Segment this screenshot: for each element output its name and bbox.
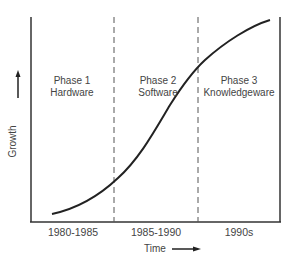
phase-2-title: Phase 2: [113, 75, 203, 87]
x-tick-label: 1985-1990: [115, 226, 197, 238]
phase-2-label: Phase 2 Software: [113, 75, 203, 99]
y-axis-title: Growth: [7, 125, 18, 157]
phase-1-title: Phase 1: [27, 75, 117, 87]
growth-curve: [52, 20, 270, 214]
phase-1-subtitle: Hardware: [27, 87, 117, 99]
s-curve-diagram: [0, 0, 293, 262]
phase-1-label: Phase 1 Hardware: [27, 75, 117, 99]
x-tick-label: 1980-1985: [32, 226, 114, 238]
phase-3-subtitle: Knowledgeware: [194, 87, 284, 99]
x-tick-label: 1990s: [199, 226, 279, 238]
phase-3-label: Phase 3 Knowledgeware: [194, 75, 284, 99]
x-axis-title: Time: [140, 243, 170, 255]
phase-3-title: Phase 3: [194, 75, 284, 87]
phase-2-subtitle: Software: [113, 87, 203, 99]
